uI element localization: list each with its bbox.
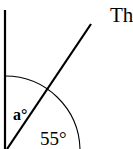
angle-55-label: 55°	[40, 128, 67, 149]
angle-diagram: a° 55° Th p	[0, 0, 133, 149]
angle-a-label: a°	[13, 106, 27, 123]
cut-text-top-right: Th	[110, 3, 133, 27]
